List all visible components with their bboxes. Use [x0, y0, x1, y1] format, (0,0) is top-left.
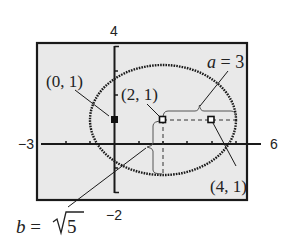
point-0-1-marker	[111, 116, 118, 123]
b-annotation: b =	[16, 216, 41, 237]
xmin-label: −3	[18, 136, 34, 152]
point-4-1-marker	[208, 117, 214, 123]
graph-canvas: 4 −3 6 −2 (0, 1) (2, 1) (4, 1) a = 3 b =…	[0, 0, 299, 246]
ellipse-graph: 4 −3 6 −2 (0, 1) (2, 1) (4, 1) a = 3 b =…	[0, 0, 299, 246]
ymax-label: 4	[110, 23, 118, 39]
point-label-2-1: (2, 1)	[121, 85, 158, 104]
point-label-4-1: (4, 1)	[210, 177, 247, 196]
point-label-0-1: (0, 1)	[46, 72, 83, 91]
ymin-label: −2	[106, 207, 122, 223]
b-radicand: 5	[67, 216, 77, 237]
point-2-1-marker	[160, 117, 166, 123]
a-annotation: a = 3	[207, 52, 244, 72]
xmax-label: 6	[270, 136, 278, 152]
